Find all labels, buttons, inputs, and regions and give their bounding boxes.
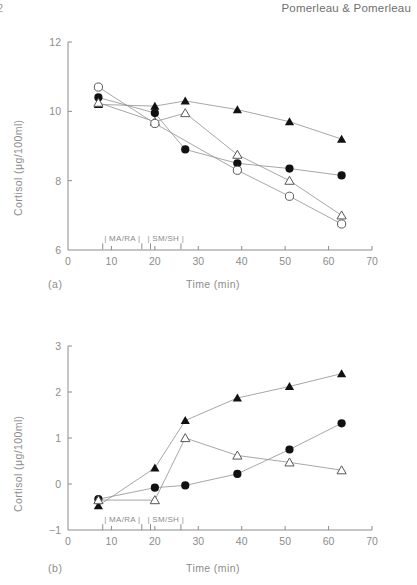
- chart-a-canvas: 010203040506070681012| MA/RA || SM/SH |: [0, 26, 417, 276]
- svg-text:−1: −1: [49, 524, 61, 536]
- svg-text:60: 60: [323, 255, 335, 267]
- svg-text:12: 12: [49, 36, 61, 48]
- svg-text:50: 50: [279, 255, 291, 267]
- figure-page: 2 Pomerleau & Pomerleau 0102030405060706…: [0, 0, 417, 585]
- svg-text:3: 3: [55, 340, 61, 352]
- svg-text:10: 10: [106, 255, 118, 267]
- chart-panel-a: 010203040506070681012| MA/RA || SM/SH | …: [0, 26, 417, 301]
- svg-text:| MA/RA |: | MA/RA |: [104, 515, 140, 524]
- svg-text:60: 60: [323, 535, 335, 547]
- svg-text:40: 40: [236, 255, 248, 267]
- chart-b-y-axis-title: Cortisol (μg/100ml): [12, 415, 24, 512]
- chart-b-x-axis-title: Time (min): [186, 562, 240, 574]
- running-header: 2 Pomerleau & Pomerleau: [0, 0, 417, 22]
- svg-text:20: 20: [149, 535, 161, 547]
- svg-text:0: 0: [65, 255, 71, 267]
- svg-text:2: 2: [55, 386, 61, 398]
- svg-text:30: 30: [192, 535, 204, 547]
- svg-text:8: 8: [55, 175, 61, 187]
- chart-b-canvas: 010203040506070−10123| MA/RA || SM/SH |: [0, 330, 417, 560]
- page-number: 2: [0, 2, 4, 14]
- svg-text:50: 50: [279, 535, 291, 547]
- svg-text:6: 6: [55, 244, 61, 256]
- svg-text:| SM/SH |: | SM/SH |: [147, 515, 184, 524]
- svg-text:| SM/SH |: | SM/SH |: [147, 234, 184, 243]
- svg-text:1: 1: [55, 432, 61, 444]
- chart-a-y-axis-title: Cortisol (μg/100ml): [12, 119, 24, 216]
- svg-text:0: 0: [65, 535, 71, 547]
- svg-text:10: 10: [106, 535, 118, 547]
- chart-a-x-axis-title: Time (min): [186, 278, 240, 290]
- svg-text:0: 0: [55, 478, 61, 490]
- chart-panel-b: 010203040506070−10123| MA/RA || SM/SH | …: [0, 330, 417, 585]
- svg-text:70: 70: [366, 535, 378, 547]
- running-head-authors: Pomerleau & Pomerleau: [282, 2, 412, 14]
- svg-text:40: 40: [236, 535, 248, 547]
- svg-text:70: 70: [366, 255, 378, 267]
- chart-b-caption: (b): [48, 562, 63, 574]
- svg-text:30: 30: [192, 255, 204, 267]
- svg-text:10: 10: [49, 105, 61, 117]
- chart-a-caption: (a): [48, 278, 63, 290]
- svg-text:| MA/RA |: | MA/RA |: [104, 234, 140, 243]
- svg-text:20: 20: [149, 255, 161, 267]
